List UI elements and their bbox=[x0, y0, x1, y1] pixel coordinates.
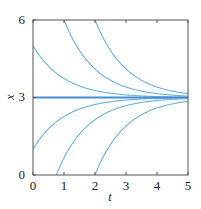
y-tick-label-6: 6 bbox=[19, 12, 26, 27]
chart: 0 3 6 0 1 2 3 4 5 t x bbox=[0, 0, 201, 209]
x-tick-label-3: 3 bbox=[123, 178, 130, 193]
x-tick-label-5: 5 bbox=[185, 178, 192, 193]
solution-curve-2 bbox=[33, 0, 188, 96]
x-tick-label-2: 2 bbox=[92, 178, 99, 193]
x-axis-label: t bbox=[108, 190, 112, 204]
x-tick-label-4: 4 bbox=[154, 178, 161, 193]
y-tick-label-0: 0 bbox=[19, 167, 26, 182]
y-axis-label: x bbox=[3, 94, 17, 101]
x-tick-label-1: 1 bbox=[61, 178, 68, 193]
y-tick-label-3: 3 bbox=[19, 89, 26, 104]
x-tick-label-0: 0 bbox=[30, 178, 37, 193]
curves bbox=[33, 0, 188, 209]
